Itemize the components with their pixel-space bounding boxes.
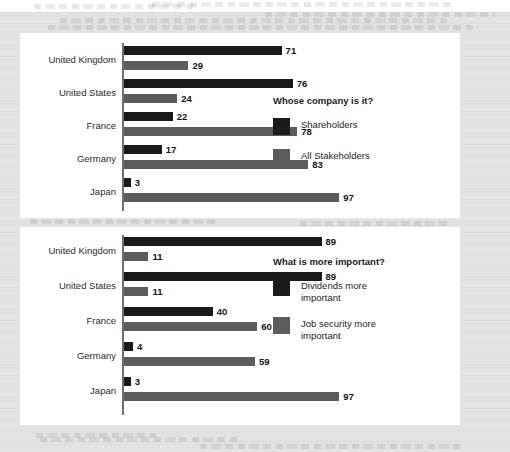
bar-value-label: 97: [343, 193, 354, 203]
bar-value-label: 76: [297, 79, 308, 89]
bar-shareholders[interactable]: [124, 112, 173, 121]
category-label: United Kingdom: [20, 55, 116, 65]
bar-shareholders[interactable]: [124, 178, 131, 187]
bar-value-label: 4: [137, 342, 142, 352]
bar-shareholders[interactable]: [124, 79, 293, 88]
all-stakeholders-swatch: [273, 149, 290, 166]
shareholders-swatch: [273, 118, 290, 135]
dividends-swatch: [273, 279, 290, 296]
category-label: Japan: [20, 187, 116, 197]
bar-job-security-more-important[interactable]: [124, 287, 148, 296]
legend-item-label: All Stakeholders: [301, 149, 370, 162]
legend-whose-company: Whose company is it? Shareholders All St…: [273, 95, 373, 180]
bar-job-security-more-important[interactable]: [124, 392, 339, 401]
bar-dividends-more-important[interactable]: [124, 342, 133, 351]
bar-value-label: 60: [261, 322, 272, 332]
category-label: Japan: [20, 386, 116, 396]
bar-all-stakeholders[interactable]: [124, 193, 339, 202]
bar-value-label: 24: [181, 94, 192, 104]
bar-job-security-more-important[interactable]: [124, 322, 257, 331]
bar-value-label: 29: [192, 61, 203, 71]
bar-value-label: 97: [343, 392, 354, 402]
bar-value-label: 22: [177, 112, 188, 122]
job-security-swatch: [273, 317, 290, 334]
bar-shareholders[interactable]: [124, 46, 282, 55]
bar-value-label: 89: [326, 237, 337, 247]
bar-job-security-more-important[interactable]: [124, 252, 148, 261]
category-label: France: [20, 121, 116, 131]
plot-area-what-is-more-important: United Kingdom8911United States8911Franc…: [20, 227, 460, 425]
legend-item[interactable]: Dividends more important: [273, 279, 385, 303]
legend-what-is-more-important: What is more important? Dividends more i…: [273, 256, 385, 355]
bar-dividends-more-important[interactable]: [124, 307, 213, 316]
bar-dividends-more-important[interactable]: [124, 237, 322, 246]
bar-value-label: 11: [152, 287, 162, 297]
scanned-page: United Kingdom7129United States7624Franc…: [0, 0, 510, 452]
bar-shareholders[interactable]: [124, 145, 162, 154]
legend-item[interactable]: All Stakeholders: [273, 149, 373, 166]
bar-value-label: 40: [217, 307, 228, 317]
legend-title: What is more important?: [273, 256, 385, 267]
bar-value-label: 3: [135, 178, 140, 188]
category-label: Germany: [20, 351, 116, 361]
bar-dividends-more-important[interactable]: [124, 377, 131, 386]
chart-panel-whose-company: United Kingdom7129United States7624Franc…: [20, 33, 460, 218]
bar-job-security-more-important[interactable]: [124, 357, 255, 366]
category-label: United Kingdom: [20, 246, 116, 256]
bar-value-label: 71: [286, 46, 297, 56]
bar-value-label: 3: [135, 377, 140, 387]
bar-all-stakeholders[interactable]: [124, 127, 297, 136]
category-label: United States: [20, 281, 116, 291]
bar-all-stakeholders[interactable]: [124, 61, 188, 70]
legend-item[interactable]: Job security more important: [273, 317, 385, 341]
legend-title: Whose company is it?: [273, 95, 373, 106]
category-label: Germany: [20, 154, 116, 164]
chart-panel-what-is-more-important: United Kingdom8911United States8911Franc…: [20, 227, 460, 425]
bar-value-label: 17: [166, 145, 177, 155]
bar-value-label: 59: [259, 357, 270, 367]
legend-item-label: Dividends more important: [301, 279, 385, 303]
plot-area-whose-company: United Kingdom7129United States7624Franc…: [20, 33, 460, 218]
bar-all-stakeholders[interactable]: [124, 94, 177, 103]
category-label: France: [20, 316, 116, 326]
category-label: United States: [20, 88, 116, 98]
legend-item-label: Shareholders: [301, 118, 358, 131]
legend-item[interactable]: Shareholders: [273, 118, 373, 135]
bar-value-label: 11: [152, 252, 162, 262]
legend-item-label: Job security more important: [301, 317, 385, 341]
